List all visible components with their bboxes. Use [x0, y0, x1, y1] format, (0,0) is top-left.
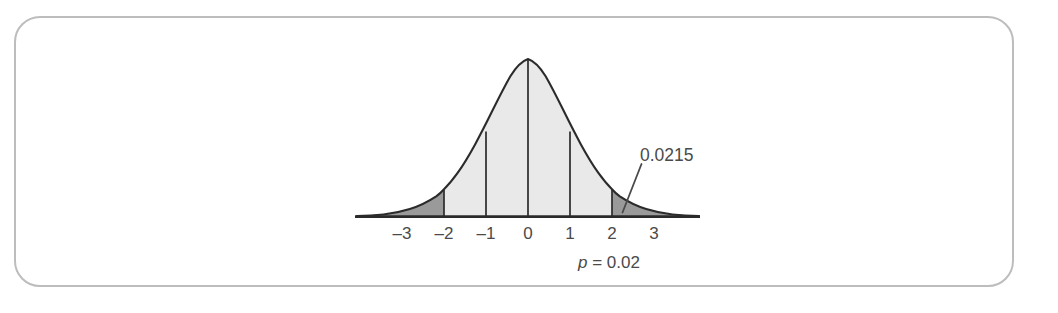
x-tick-label-3: 3	[649, 224, 658, 243]
tail-area-annotation-label: 0.0215	[640, 145, 694, 165]
p-value-caption: p = 0.02	[577, 253, 640, 272]
normal-distribution-chart: –3 –2 –1 0 1 2 3 0.0215 p = 0.02	[0, 0, 1058, 313]
normal-curve-svg: –3 –2 –1 0 1 2 3 0.0215 p = 0.02	[0, 0, 1058, 313]
p-symbol: p	[577, 253, 587, 272]
x-tick-label-neg1: –1	[477, 224, 496, 243]
x-tick-label-neg3: –3	[393, 224, 412, 243]
x-tick-label-2: 2	[607, 224, 616, 243]
x-axis-tick-labels: –3 –2 –1 0 1 2 3	[393, 224, 659, 243]
x-tick-label-1: 1	[565, 224, 574, 243]
x-tick-label-0: 0	[523, 224, 532, 243]
p-value-text: = 0.02	[587, 253, 639, 272]
x-tick-label-neg2: –2	[435, 224, 454, 243]
